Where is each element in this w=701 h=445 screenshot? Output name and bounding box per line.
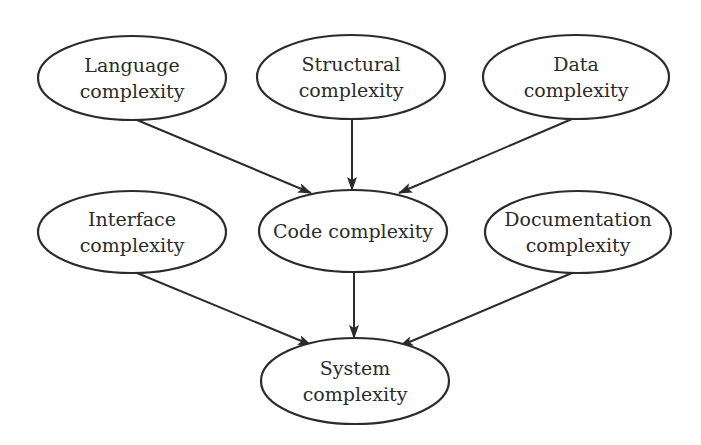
edge-interface-to-system (137, 273, 311, 345)
label-line: Language (80, 52, 185, 78)
label-line: complexity (80, 232, 185, 258)
label-line: Documentation (504, 206, 651, 232)
label-line: System (303, 355, 408, 381)
edge-documentation-to-system (400, 273, 572, 346)
edge-language-to-code (137, 120, 311, 193)
label-line: Structural (299, 51, 404, 77)
label-line: complexity (303, 381, 408, 407)
label-line: complexity (299, 77, 404, 103)
label-line: Data (524, 51, 629, 77)
node-label-interface: Interface complexity (80, 206, 185, 258)
label-line: Code complexity (273, 218, 433, 244)
node-label-data: Data complexity (524, 51, 629, 103)
edge-data-to-code (399, 119, 572, 193)
label-line: complexity (524, 77, 629, 103)
label-line: Interface (80, 206, 185, 232)
node-label-structural: Structural complexity (299, 51, 404, 103)
label-line: complexity (504, 232, 651, 258)
complexity-diagram: Language complexity Structural complexit… (0, 0, 701, 445)
node-label-documentation: Documentation complexity (504, 206, 651, 258)
node-label-system: System complexity (303, 355, 408, 407)
node-label-language: Language complexity (80, 52, 185, 104)
label-line: complexity (80, 78, 185, 104)
node-label-code: Code complexity (273, 218, 433, 244)
